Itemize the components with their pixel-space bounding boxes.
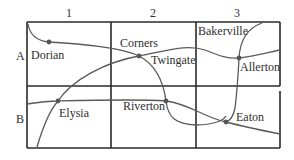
town-label-allerton[interactable]: Allerton [240,61,280,73]
dorian-dot[interactable] [47,40,52,45]
map-canvas [0,0,294,160]
column-label-3: 3 [234,7,240,19]
town-label-eaton[interactable]: Eaton [236,111,264,123]
town-label-dorian[interactable]: Dorian [31,49,64,61]
town-label-corners[interactable]: Corners [120,37,158,49]
town-label-riverton[interactable]: Riverton [123,100,165,112]
corners-twingate-dot[interactable] [137,54,142,59]
elysia-dot[interactable] [56,99,61,104]
row-label-a: A [16,50,25,62]
row-label-b: B [16,113,24,125]
town-label-elysia[interactable]: Elysia [59,107,89,119]
column-label-1: 1 [66,7,72,19]
column-label-2: 2 [150,7,156,19]
town-label-bakerville[interactable]: Bakerville [198,25,248,37]
town-label-twingate[interactable]: Twingate [151,54,195,66]
eaton-dot[interactable] [224,120,229,125]
